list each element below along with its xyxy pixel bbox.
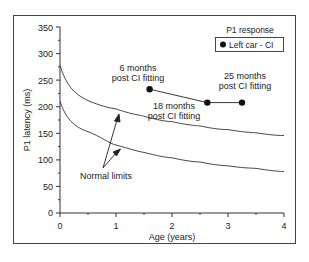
y-tick-label: 50 xyxy=(43,182,53,192)
x-tick-label: 2 xyxy=(169,221,174,231)
legend-entry-label: Left car - CI xyxy=(229,40,273,50)
legend-marker-icon xyxy=(220,42,226,48)
data-point-6-months xyxy=(146,86,152,92)
data-point-18-months xyxy=(204,99,210,105)
x-tick-label: 4 xyxy=(281,221,286,231)
x-tick-label: 1 xyxy=(113,221,118,231)
annotation-25-months-sub: post CI fitting xyxy=(219,81,272,91)
annotation-18-months-sub: post CI fitting xyxy=(148,111,201,121)
x-axis-label: Age (years) xyxy=(149,232,196,242)
y-tick-label: 150 xyxy=(38,129,53,139)
annotation-18-months: 18 months xyxy=(153,101,196,111)
x-tick-label: 3 xyxy=(225,221,230,231)
y-tick-label: 250 xyxy=(38,76,53,86)
y-tick-label: 350 xyxy=(38,23,53,33)
x-tick-label: 0 xyxy=(57,221,62,231)
y-tick-label: 300 xyxy=(38,49,53,59)
y-axis-label: P1 latency (ms) xyxy=(22,89,32,152)
annotation-6-months: 6 months xyxy=(119,63,157,73)
annotation-25-months: 25 months xyxy=(224,71,267,81)
data-point-25-months xyxy=(239,99,245,105)
annotation-normal-limits: Normal limits xyxy=(80,171,133,181)
y-tick-label: 100 xyxy=(38,155,53,165)
legend-title: P1 response xyxy=(226,25,274,35)
y-tick-label: 0 xyxy=(48,208,53,218)
chart: 0 50 100 150 200 250 300 350 0 1 2 3 4 A… xyxy=(0,0,309,262)
y-tick-label: 200 xyxy=(38,102,53,112)
annotation-6-months-sub: post CI fitting xyxy=(112,73,165,83)
